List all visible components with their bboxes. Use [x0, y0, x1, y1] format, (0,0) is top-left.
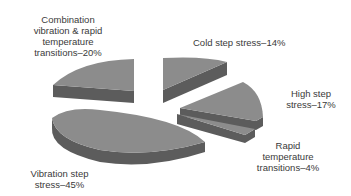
label-line: stress–17% — [276, 99, 346, 110]
slice-combination — [53, 59, 134, 103]
label-line: Cold step stress–14% — [193, 37, 285, 48]
label-line: temperature — [248, 151, 328, 162]
label-line: Vibration step — [22, 168, 97, 179]
label-line: transitions–20% — [18, 47, 118, 58]
label-line: transitions–4% — [248, 162, 328, 173]
label-line: Combination — [18, 14, 118, 25]
label-line: High step — [276, 88, 346, 99]
label-line: Rapid — [248, 140, 328, 151]
label-cold: Cold step stress–14% — [193, 37, 285, 48]
label-line: vibration & rapid — [18, 25, 118, 36]
label-combination: Combination vibration & rapid temperatur… — [18, 14, 118, 58]
label-line: stress–45% — [22, 179, 97, 190]
label-line: temperature — [18, 36, 118, 47]
label-rapid: Rapid temperature transitions–4% — [248, 140, 328, 173]
label-high: High step stress–17% — [276, 88, 346, 110]
label-vibration: Vibration step stress–45% — [22, 168, 97, 190]
